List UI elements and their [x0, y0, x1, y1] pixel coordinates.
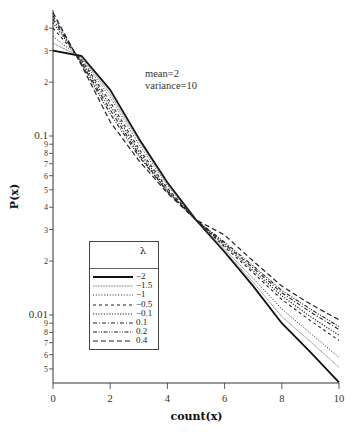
- chart-plot-area: 4320.1987654320.0198765 0246810: [0, 0, 353, 435]
- x-axis-title: count(x): [0, 410, 353, 423]
- y-tick-label: 8: [44, 149, 48, 158]
- y-tick-label: 7: [44, 160, 48, 169]
- legend-line-swatch: [92, 319, 134, 327]
- legend-line-swatch: [92, 282, 134, 290]
- x-tick-label: 8: [279, 393, 284, 404]
- annotation-mean: mean=2: [145, 68, 179, 80]
- x-tick-label: 10: [334, 393, 345, 404]
- legend-item: 0.4: [90, 336, 158, 345]
- y-tick-label: 3: [44, 226, 48, 235]
- y-tick-label: 6: [44, 351, 48, 360]
- y-tick-label: 0.01: [29, 308, 48, 320]
- y-tick-label: 8: [44, 328, 48, 337]
- y-axis-title: P(x): [8, 177, 21, 217]
- y-tick-label: 5: [44, 365, 48, 374]
- x-tick-label: 2: [108, 393, 113, 404]
- x-ticks: 0246810: [50, 383, 344, 404]
- annotation-variance: variance=10: [145, 80, 197, 92]
- legend-title: λ: [140, 245, 146, 256]
- y-tick-label: 5: [44, 186, 48, 195]
- legend-item: −1.5: [90, 281, 158, 290]
- legend-line-swatch: [92, 310, 134, 318]
- x-tick-label: 4: [165, 393, 171, 404]
- y-tick-label: 2: [44, 257, 48, 266]
- x-tick-label: 0: [50, 393, 55, 404]
- legend-label: 0.4: [136, 335, 147, 345]
- y-tick-label: 2: [44, 78, 48, 87]
- y-tick-label: 6: [44, 172, 48, 181]
- y-ticks: 4320.1987654320.0198765: [29, 24, 53, 374]
- legend-header: λ: [90, 242, 158, 269]
- y-tick-label: 3: [44, 47, 48, 56]
- x-tick-label: 6: [222, 393, 227, 404]
- legend-item: 0.1: [90, 318, 158, 327]
- y-tick-label: 7: [44, 339, 48, 348]
- legend: λ −2−1.5−1−0.5−0.10.10.20.4: [89, 241, 159, 350]
- legend-line-swatch: [92, 291, 134, 299]
- y-tick-label: 4: [44, 24, 48, 33]
- legend-line-swatch: [92, 337, 134, 345]
- y-tick-label: 9: [44, 319, 48, 328]
- y-tick-label: 9: [44, 140, 48, 149]
- y-tick-label: 4: [44, 203, 48, 212]
- legend-rows: −2−1.5−1−0.5−0.10.10.20.4: [90, 269, 158, 346]
- y-tick-label: 0.1: [34, 129, 48, 141]
- legend-item: −0.1: [90, 309, 158, 318]
- legend-line-swatch: [92, 328, 134, 336]
- legend-item: 0.2: [90, 327, 158, 336]
- legend-line-swatch: [92, 273, 134, 281]
- legend-line-swatch: [92, 301, 134, 309]
